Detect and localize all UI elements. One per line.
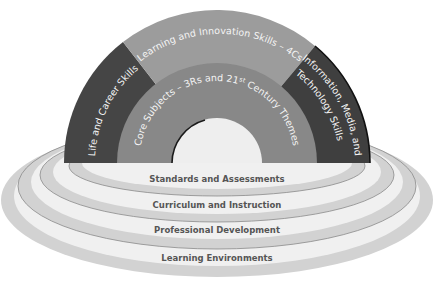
p21-framework-diagram: Life and Career Skills Learning and Inno… xyxy=(0,0,441,285)
label-standards-assessments: Standards and Assessments xyxy=(149,174,284,184)
label-curriculum-instruction: Curriculum and Instruction xyxy=(153,200,282,210)
label-learning-environments: Learning Environments xyxy=(161,253,272,263)
label-professional-development: Professional Development xyxy=(154,225,280,235)
